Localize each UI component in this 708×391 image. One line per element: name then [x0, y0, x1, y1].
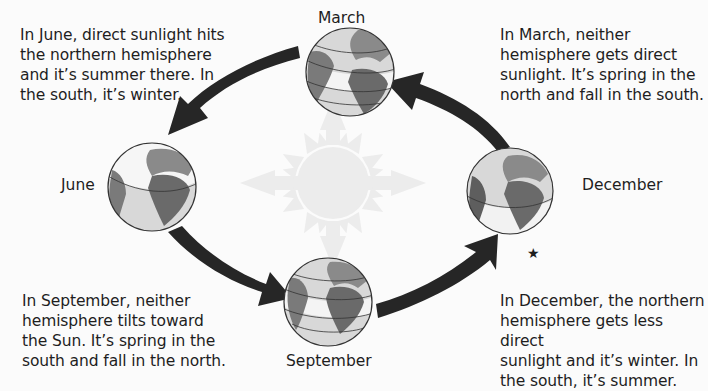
- caption-september: In September, neither hemisphere tilts t…: [22, 291, 226, 371]
- label-december: December: [582, 176, 662, 194]
- label-march: March: [318, 9, 365, 27]
- arrow-december-to-march-icon: [386, 72, 510, 152]
- caption-june: In June, direct sunlight hits the northe…: [20, 25, 225, 105]
- caption-line: north and fall in the south.: [500, 85, 704, 105]
- caption-december: In December, the northern hemisphere get…: [500, 291, 708, 391]
- caption-line: In December, the northern: [500, 291, 708, 311]
- label-september: September: [286, 352, 372, 370]
- arrow-september-to-december-icon: [376, 234, 498, 318]
- caption-line: the south, it’s summer.: [500, 371, 708, 391]
- caption-line: south and fall in the north.: [22, 351, 226, 371]
- caption-line: sunlight. It’s spring in the: [500, 65, 704, 85]
- caption-line: hemisphere gets less direct: [500, 311, 708, 351]
- caption-line: the south, it’s winter.: [20, 85, 225, 105]
- caption-line: In June, direct sunlight hits: [20, 25, 225, 45]
- caption-line: In September, neither: [22, 291, 226, 311]
- caption-line: hemisphere gets direct: [500, 45, 704, 65]
- caption-line: and it’s summer there. In: [20, 65, 225, 85]
- star-icon: ★: [527, 245, 540, 261]
- globe-december-icon: [467, 148, 553, 240]
- caption-line: the northern hemisphere: [20, 45, 225, 65]
- globe-march-icon: [300, 28, 400, 116]
- caption-line: hemisphere tilts toward: [22, 311, 226, 331]
- globe-june-icon: [108, 140, 200, 231]
- caption-march: In March, neither hemisphere gets direct…: [500, 25, 704, 105]
- label-june: June: [61, 176, 95, 194]
- caption-line: the Sun. It’s spring in the: [22, 331, 226, 351]
- globe-september-icon: [280, 258, 376, 346]
- caption-line: sunlight and it’s winter. In: [500, 351, 708, 371]
- sun-icon: [240, 98, 426, 268]
- caption-line: In March, neither: [500, 25, 704, 45]
